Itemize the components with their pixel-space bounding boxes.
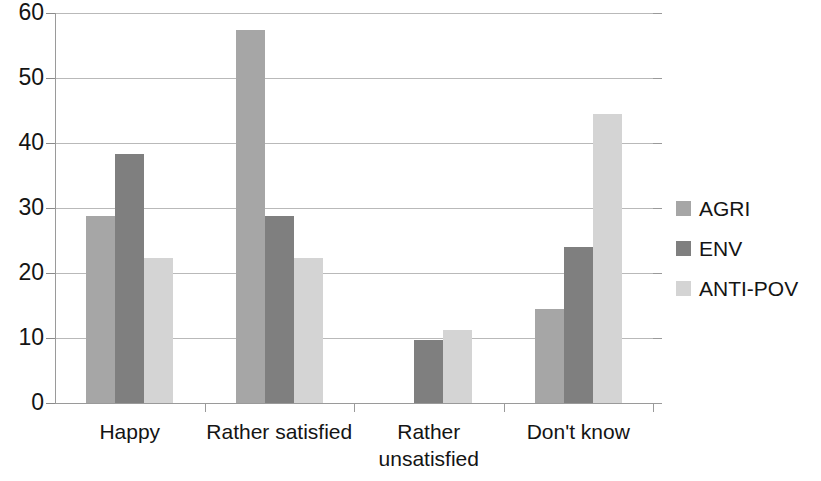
y-tick-label: 30 [0, 196, 44, 219]
legend-item[interactable]: AGRI [676, 188, 821, 228]
y-tick-mark [46, 13, 55, 14]
y-tick-label: 0 [0, 391, 44, 414]
bar-env [414, 340, 443, 403]
y-tick-mark-right [653, 13, 662, 14]
x-axis-label: Happy [55, 418, 205, 445]
bar-group-bars [504, 13, 654, 403]
y-tick-label: 60 [0, 1, 44, 24]
bar-group [504, 13, 654, 403]
y-tick-mark [46, 273, 55, 274]
x-tick-mark [504, 403, 505, 412]
x-axis-label: Ratherunsatisfied [354, 418, 504, 472]
y-tick-mark [46, 78, 55, 79]
y-tick-label: 20 [0, 261, 44, 284]
legend-swatch-icon [676, 201, 691, 216]
legend-swatch-icon [676, 281, 691, 296]
y-axis: 6050403020100 [0, 0, 44, 420]
bar-chart: 6050403020100 HappyRather satisfiedRathe… [0, 0, 821, 481]
x-axis-label: Don't know [504, 418, 654, 445]
bar-anti-pov [294, 258, 323, 403]
y-tick-mark [46, 338, 55, 339]
legend-item[interactable]: ANTI-POV [676, 268, 821, 308]
y-tick-mark-right [653, 403, 662, 404]
y-tick-label: 50 [0, 66, 44, 89]
bar-anti-pov [443, 330, 472, 403]
chart-legend: AGRIENVANTI-POV [676, 188, 821, 308]
y-tick-mark [46, 208, 55, 209]
x-axis-label-line: Don't know [504, 418, 654, 445]
y-tick-mark-right [653, 338, 662, 339]
x-axis-label: Rather satisfied [205, 418, 355, 445]
bar-groups [55, 13, 653, 403]
bar-env [564, 247, 593, 403]
x-tick-mark [354, 403, 355, 412]
bar-env [265, 216, 294, 403]
x-axis-label-line: Happy [55, 418, 205, 445]
bar-env [115, 154, 144, 403]
y-tick-mark [46, 143, 55, 144]
y-tick-mark-right [653, 273, 662, 274]
y-tick-mark [46, 403, 55, 404]
legend-label: ENV [699, 238, 742, 259]
bar-group-bars [205, 13, 355, 403]
x-tick-mark [653, 403, 654, 412]
bar-group-bars [354, 13, 504, 403]
y-tick-mark-right [653, 78, 662, 79]
bar-group [55, 13, 205, 403]
bar-agri [236, 30, 265, 403]
x-axis-label-line: Rather satisfied [205, 418, 355, 445]
bar-group [205, 13, 355, 403]
legend-label: ANTI-POV [699, 278, 798, 299]
bar-anti-pov [593, 114, 622, 403]
bar-agri [86, 216, 115, 403]
x-axis-label-line: unsatisfied [354, 445, 504, 472]
y-tick-mark-right [653, 208, 662, 209]
y-tick-mark-right [653, 143, 662, 144]
y-tick-label: 10 [0, 326, 44, 349]
legend-item[interactable]: ENV [676, 228, 821, 268]
bar-anti-pov [144, 258, 173, 403]
bar-group-bars [55, 13, 205, 403]
y-tick-label: 40 [0, 131, 44, 154]
x-tick-mark [205, 403, 206, 412]
legend-label: AGRI [699, 198, 750, 219]
x-axis-label-line: Rather [354, 418, 504, 445]
y-axis-right-ticks [653, 13, 663, 404]
bar-agri [535, 309, 564, 403]
legend-swatch-icon [676, 241, 691, 256]
bar-group [354, 13, 504, 403]
x-axis-labels: HappyRather satisfiedRatherunsatisfiedDo… [55, 418, 653, 480]
